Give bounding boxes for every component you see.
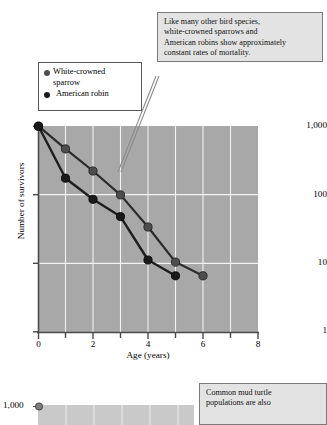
callout-turtles-line-1: Common mud turtle [206,388,321,398]
legend-item-white-crowned-sparrow[interactable]: White-crowned [44,67,137,78]
x-tick-label-0: 0 [29,339,49,349]
chart-legend: White-crowned sparrow American robin [38,62,142,111]
chart2-marker-turtle [35,403,42,410]
y-tick-label-1000: 1,000 [295,120,327,130]
x-tick-label-4: 4 [138,339,158,349]
chart2-plot-background [38,405,194,425]
y-tick-label-100: 100 [295,189,327,199]
chart2-y-tick-label-1000: 1,000 [3,400,24,410]
figure-root: 1,000 100 10 1 0 2 4 6 8 Number of survi… [0,0,327,425]
callout-birds-line-4: constant rates of mortality. [164,48,317,58]
legend-item-american-robin[interactable]: American robin [44,89,137,100]
x-tick-label-6: 6 [193,339,213,349]
legend-marker-robin-icon [44,92,50,98]
y-axis-title: Number of survivors [16,146,26,256]
legend-label-sparrow: White-crowned [53,67,105,78]
y-tick-label-1: 1 [295,325,327,335]
callout-birds-line-2: white-crowned sparrows and [164,27,317,37]
callout-birds-line-1: Like many other bird species, [164,17,317,27]
y-axis-ticks [33,126,38,332]
callout-turtles-line-2: populations are also [206,398,321,408]
x-tick-label-8: 8 [248,339,268,349]
callout-turtles: Common mud turtle populations are also [199,383,327,425]
legend-label-sparrow-line2: sparrow [44,78,137,89]
callout-birds: Like many other bird species, white-crow… [157,12,323,62]
x-axis-title: Age (years) [38,350,258,360]
callout-birds-line-3: American robins show approximately [164,38,317,48]
legend-marker-sparrow-icon [44,70,50,76]
legend-label-robin: American robin [53,89,109,100]
x-tick-label-2: 2 [83,339,103,349]
y-tick-label-10: 10 [295,257,327,267]
